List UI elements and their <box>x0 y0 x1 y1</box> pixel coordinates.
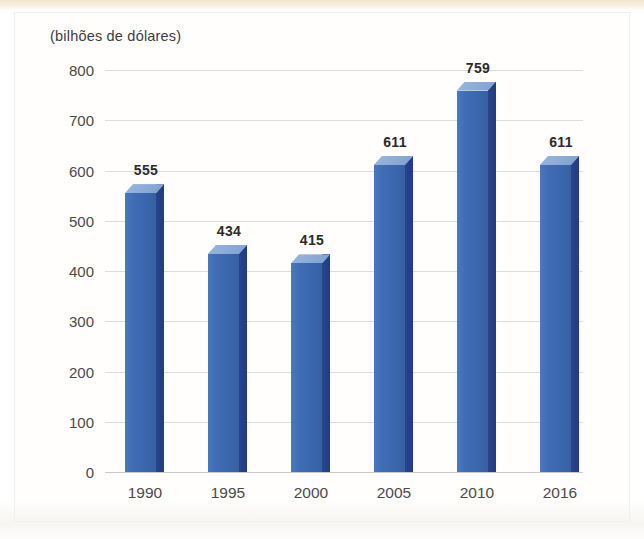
bar-chart: (bilhões de dólares) 8007006005004003002… <box>0 0 644 539</box>
bar-front-face <box>125 193 156 472</box>
bar-front-face <box>208 254 239 472</box>
bar-value-label: 434 <box>199 223 259 239</box>
bar-column <box>540 156 579 472</box>
y-axis-tick-label: 700 <box>48 112 94 129</box>
bar-front-face <box>540 165 571 472</box>
bar-value-label: 611 <box>365 134 425 150</box>
y-axis-tick-label: 300 <box>48 313 94 330</box>
y-axis-tick-label: 600 <box>48 162 94 179</box>
gridline <box>105 171 583 172</box>
bar-column <box>374 156 413 472</box>
bar-column <box>291 254 330 472</box>
x-axis-tick-label: 2010 <box>442 484 512 502</box>
bar-column <box>457 82 496 472</box>
bar-front-face <box>457 91 488 472</box>
bar-value-label: 611 <box>531 134 591 150</box>
bar-value-label: 555 <box>116 162 176 178</box>
plot-area: 8007006005004003002001000 55543441561175… <box>105 70 583 472</box>
gridline <box>105 221 583 222</box>
bar-side-face <box>405 156 413 472</box>
y-axis-tick-label: 500 <box>48 212 94 229</box>
gridline <box>105 271 583 272</box>
bar-side-face <box>488 82 496 472</box>
gridline <box>105 372 583 373</box>
bar-front-face <box>374 165 405 472</box>
x-axis-tick-label: 2000 <box>276 484 346 502</box>
bar-column <box>125 184 164 472</box>
gridline <box>105 321 583 322</box>
bar-side-face <box>322 254 330 472</box>
y-axis-tick-label: 0 <box>48 464 94 481</box>
y-axis-tick-label: 200 <box>48 363 94 380</box>
bar-value-label: 415 <box>282 232 342 248</box>
bar-side-face <box>239 245 247 472</box>
bar-side-face <box>571 156 579 472</box>
bar-value-label: 759 <box>448 60 508 76</box>
y-axis-tick-label: 100 <box>48 413 94 430</box>
bar-column <box>208 245 247 472</box>
x-axis-tick-label: 1995 <box>193 484 263 502</box>
y-axis-tick-label: 800 <box>48 62 94 79</box>
gridline <box>105 120 583 121</box>
chart-subtitle: (bilhões de dólares) <box>50 28 181 44</box>
bar-front-face <box>291 263 322 472</box>
gridline <box>105 472 583 473</box>
bar-side-face <box>156 184 164 472</box>
gridline <box>105 70 583 71</box>
x-axis-tick-label: 2016 <box>525 484 595 502</box>
gridline <box>105 422 583 423</box>
y-axis-tick-label: 400 <box>48 263 94 280</box>
x-axis-tick-label: 2005 <box>359 484 429 502</box>
x-axis-tick-label: 1990 <box>110 484 180 502</box>
